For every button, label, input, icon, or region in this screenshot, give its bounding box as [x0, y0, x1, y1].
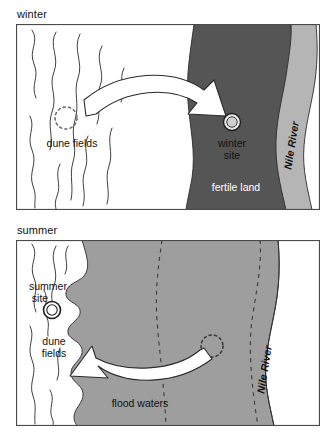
- winter-site-label-line1: winter: [217, 137, 247, 149]
- winter-site-label-line2: site: [224, 149, 241, 161]
- panel-summer: summer: [0, 216, 336, 432]
- panel-summer-frame: summer site dune fields flood waters Nil…: [16, 240, 320, 426]
- summer-scene: summer site dune fields flood waters Nil…: [16, 240, 320, 426]
- panel-summer-caption: summer: [17, 224, 57, 236]
- winter-site-marker: [224, 114, 241, 131]
- summer-site-label-line2: site: [32, 292, 49, 304]
- panel-winter-frame: dune fields winter site fertile land Nil…: [16, 24, 320, 210]
- flood-waters-body: [66, 240, 279, 426]
- flood-waters-label: flood waters: [112, 397, 169, 409]
- summer-site-marker: [44, 302, 61, 319]
- panel-winter-caption: winter: [17, 8, 47, 20]
- summer-dune-fields-label-line2: fields: [42, 347, 67, 359]
- winter-dune-fields-label-line1: dune fields: [47, 137, 98, 149]
- figure-sheet: winter: [0, 0, 336, 432]
- summer-site-label-line1: summer: [29, 280, 67, 292]
- fertile-land-label: fertile land: [212, 181, 261, 193]
- panel-winter: winter: [0, 0, 336, 216]
- winter-scene: dune fields winter site fertile land Nil…: [16, 24, 320, 210]
- summer-dune-fields-label-line1: dune: [42, 335, 66, 347]
